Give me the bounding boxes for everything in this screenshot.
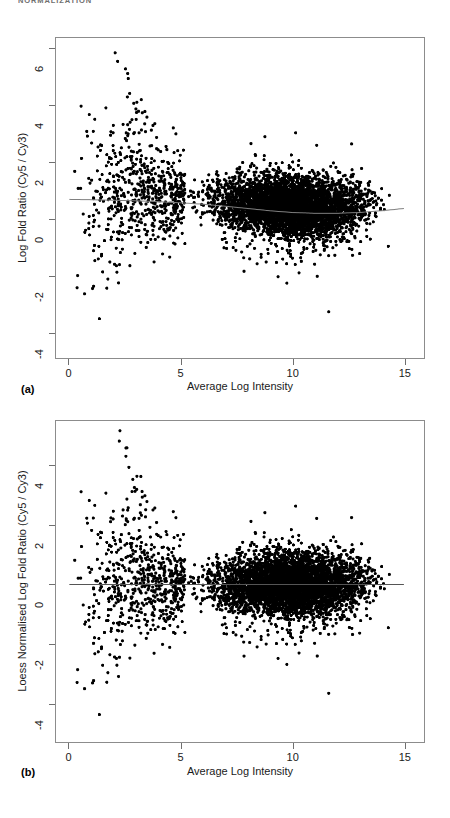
y-tick-label-wrap: -2	[15, 270, 45, 282]
x-tick	[293, 743, 294, 749]
y-tick	[49, 105, 55, 106]
y-tick-label-wrap: -4	[15, 327, 45, 339]
y-tick	[49, 333, 55, 334]
y-tick-label: 2	[33, 168, 45, 198]
y-tick-label: 6	[33, 54, 45, 84]
figure-page: NORMALIZATION 051015-4-20246 Average Log…	[0, 0, 450, 818]
x-tick	[405, 743, 406, 749]
y-tick-label-wrap: 6	[15, 42, 45, 54]
y-tick-label-wrap: -4	[15, 698, 45, 710]
scatter-canvas-a	[56, 38, 424, 358]
y-tick	[49, 219, 55, 220]
y-tick-label: -4	[33, 710, 45, 740]
x-tick	[68, 359, 69, 365]
x-tick	[405, 359, 406, 365]
y-tick	[49, 525, 55, 526]
y-tick-label: 0	[33, 590, 45, 620]
plot-area-a	[55, 37, 425, 359]
y-tick	[49, 465, 55, 466]
y-tick-label: 0	[33, 225, 45, 255]
x-tick-label: 5	[178, 367, 184, 379]
y-tick	[49, 584, 55, 585]
x-tick	[68, 743, 69, 749]
y-tick	[49, 644, 55, 645]
x-tick-label: 15	[399, 367, 411, 379]
x-axis-title-a: Average Log Intensity	[187, 380, 293, 392]
y-axis-title-b: Loess Normalised Log Fold Ratio (Cy5 / C…	[16, 470, 28, 691]
y-tick-label: -2	[33, 650, 45, 680]
y-tick-label: -4	[33, 339, 45, 369]
x-tick-label: 15	[399, 751, 411, 763]
x-tick	[181, 743, 182, 749]
plot-area-b	[55, 420, 425, 743]
y-tick	[49, 704, 55, 705]
y-tick-label: 4	[33, 471, 45, 501]
x-tick-label: 10	[287, 367, 299, 379]
y-tick-label: -2	[33, 282, 45, 312]
x-tick	[181, 359, 182, 365]
y-axis-title-a: Log Fold Ratio (Cy5 / Cy3)	[16, 133, 28, 263]
scatter-canvas-b	[56, 421, 424, 742]
panel-label-b: (b)	[21, 766, 35, 778]
x-tick-label: 0	[65, 751, 71, 763]
x-tick-label: 10	[287, 751, 299, 763]
y-tick-label: 4	[33, 111, 45, 141]
panel-label-a: (a)	[21, 383, 34, 395]
x-tick-label: 5	[178, 751, 184, 763]
y-tick	[49, 276, 55, 277]
running-header: NORMALIZATION	[18, 0, 92, 6]
y-tick-label-wrap: 4	[15, 459, 45, 471]
x-axis-title-b: Average Log Intensity	[187, 765, 293, 777]
y-tick	[49, 48, 55, 49]
y-tick-label: 2	[33, 531, 45, 561]
x-tick	[293, 359, 294, 365]
x-tick-label: 0	[65, 367, 71, 379]
y-tick-label-wrap: 4	[15, 99, 45, 111]
y-tick	[49, 162, 55, 163]
